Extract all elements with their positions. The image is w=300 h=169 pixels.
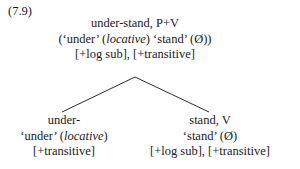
left-node-line-features: [+transitive] (2, 144, 126, 160)
right-node-line-features: [+log sub], [+transitive] (126, 144, 294, 160)
root-node-line-gloss: (‘under’ (locative) ‘stand’ (Ø)) (0, 32, 270, 48)
right-node-line-gloss: ‘stand’ (Ø) (126, 129, 294, 145)
left-gloss-italic: locative (64, 129, 104, 143)
figure-container: (7.9) under-stand, P+V (‘under’ (locativ… (0, 0, 300, 169)
left-node-line-form: under- (2, 113, 126, 129)
left-node-line-gloss: ‘under’ (locative) (2, 129, 126, 145)
root-node-line-features: [+log sub], [+transitive] (0, 47, 270, 63)
root-node-line-form: under-stand, P+V (0, 16, 270, 32)
right-node-line-form: stand, V (126, 113, 294, 129)
branch-line-right (135, 77, 209, 112)
tree-node-root: under-stand, P+V (‘under’ (locative) ‘st… (0, 16, 270, 63)
left-gloss-suffix: ) (104, 129, 108, 143)
branch-line-left (62, 77, 135, 112)
right-gloss-prefix: ‘stand’ (Ø) (183, 129, 237, 143)
root-gloss-italic: locative (106, 32, 146, 46)
root-gloss-suffix: ) ‘stand’ (Ø)) (146, 32, 212, 46)
tree-node-left: under- ‘under’ (locative) [+transitive] (2, 113, 126, 160)
root-gloss-prefix: (‘under’ ( (58, 32, 106, 46)
tree-node-right: stand, V ‘stand’ (Ø) [+log sub], [+trans… (126, 113, 294, 160)
left-gloss-prefix: ‘under’ ( (20, 129, 64, 143)
